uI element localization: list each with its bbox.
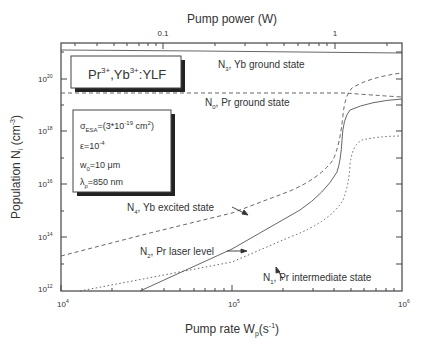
label-n2: N2, Pr laser level xyxy=(140,246,214,259)
svg-text:1012: 1012 xyxy=(38,283,53,294)
svg-text:105: 105 xyxy=(228,298,240,309)
svg-text:1016: 1016 xyxy=(38,178,53,189)
top-axis-title: Pump power (W) xyxy=(187,12,277,26)
top-tick-0.1: 0.1 xyxy=(157,29,169,38)
svg-text:104: 104 xyxy=(57,298,69,309)
y-axis-title: Population Ni (cm-3) xyxy=(9,115,24,219)
series-n2-pr-laser xyxy=(140,99,402,291)
label-n0: N0, Pr ground state xyxy=(205,97,290,110)
svg-text:Pr3+,Yb3+:YLF: Pr3+,Yb3+:YLF xyxy=(88,66,166,82)
svg-text:1020: 1020 xyxy=(38,73,53,84)
x-axis-title: Pump rate Wp(s-1) xyxy=(185,322,279,338)
svg-text:1018: 1018 xyxy=(38,125,53,136)
material-box: Pr3+,Yb3+:YLF xyxy=(71,56,185,92)
y-tick-labels: 1020 1018 1016 1014 1012 xyxy=(38,73,53,294)
label-n1: N1, Pr intermediate state xyxy=(263,272,372,285)
svg-text:1014: 1014 xyxy=(38,231,53,242)
svg-text:106: 106 xyxy=(398,298,410,309)
series-n3-yb-ground xyxy=(61,50,402,53)
population-chart: Pr3+,Yb3+:YLF σESA=(3*10-19 cm2) ε=10-4 … xyxy=(0,0,421,344)
x-axis-ticks xyxy=(61,285,394,291)
label-n4: N4, Yb excited state xyxy=(127,202,215,215)
parameters-box: σESA=(3*10-19 cm2) ε=10-4 w0=10 μm λp=85… xyxy=(73,110,175,196)
x-tick-labels: 104 105 106 xyxy=(57,298,410,309)
top-axis-ticks xyxy=(75,43,387,49)
top-tick-1: 1 xyxy=(333,29,338,38)
label-n3: N3, Yb ground state xyxy=(218,59,305,72)
